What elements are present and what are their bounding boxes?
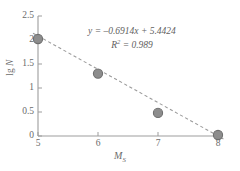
annotation-block: y = –0.6914x + 5.4424 R2 = 0.989 [70, 26, 194, 52]
x-tick-label: 8 [208, 139, 228, 149]
y-axis-title-variable: N [5, 60, 15, 66]
y-axis-title-prefix: lg [5, 66, 15, 76]
x-tick-label: 5 [28, 139, 48, 149]
x-axis-title: MS [0, 151, 240, 164]
data-point-marker [93, 69, 102, 78]
y-tick-label: 0.5 [12, 107, 34, 117]
data-point-marker [153, 108, 162, 117]
x-axis-ticks [38, 132, 218, 136]
y-tick-label: 2.5 [12, 11, 34, 21]
r-squared-value: = 0.989 [120, 40, 153, 50]
regression-equation-label: y = –0.6914x + 5.4424 [70, 26, 194, 38]
y-tick-label: 1 [12, 83, 34, 93]
x-axis-title-subscript: S [122, 156, 126, 164]
data-point-marker [33, 34, 42, 43]
y-axis-title: lg N [6, 62, 16, 76]
r-squared-label: R2 = 0.989 [70, 38, 194, 52]
x-tick-label: 7 [148, 139, 168, 149]
x-tick-label: 6 [88, 139, 108, 149]
chart-container: 2.5 2 1.5 1 0.5 0 5 6 7 8 lg N MS y = –0… [0, 0, 240, 171]
y-tick-label: 2 [12, 35, 34, 45]
